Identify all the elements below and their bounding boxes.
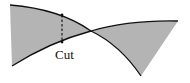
- left-shaded-region: [10, 5, 91, 66]
- cut-top-dot: [61, 14, 64, 17]
- cut-label: Cut: [55, 47, 74, 62]
- cut-bottom-dot: [61, 41, 64, 44]
- cut-diagram: Cut: [0, 0, 190, 83]
